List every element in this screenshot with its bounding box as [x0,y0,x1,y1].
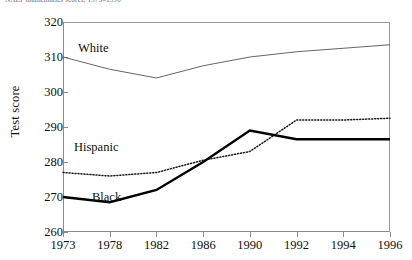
x-tick [250,232,251,237]
series-label-hispanic: Hispanic [74,140,118,155]
series-label-white: White [78,41,109,56]
x-tick [390,232,391,237]
x-tick [297,232,298,237]
x-tick [110,232,111,237]
x-tick [343,232,344,237]
x-tick [156,232,157,237]
series-label-black: Black [92,190,121,205]
x-tick-label: 1996 [362,238,412,253]
series-line-white [63,45,390,78]
x-tick [63,232,64,237]
series-layer [0,0,412,260]
chart-figure: NAEP mathematics scores, 1973–1996 26027… [0,0,412,260]
x-tick [203,232,204,237]
